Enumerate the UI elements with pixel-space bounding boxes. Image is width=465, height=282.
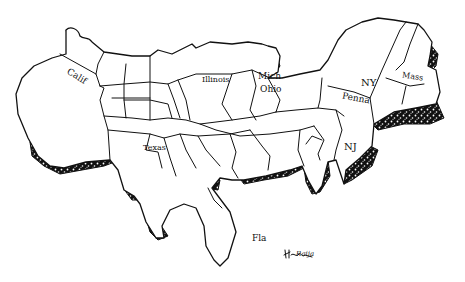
label-texas: Texas [143, 144, 166, 152]
label-mich: Mich [258, 72, 281, 81]
country-outline [16, 18, 440, 266]
label-illinois: Illinois [202, 76, 229, 84]
label-fla: Fla [252, 234, 267, 243]
label-nj: NJ [344, 142, 357, 152]
us-cartogram-drawing [0, 0, 465, 282]
label-ohio: Ohio [260, 85, 281, 94]
cartogram-illustration: Calif Illinois Mich Ohio NY Penna Mass N… [0, 0, 465, 282]
label-ny: NY [361, 78, 376, 88]
artist-signature: Raija [296, 250, 314, 258]
